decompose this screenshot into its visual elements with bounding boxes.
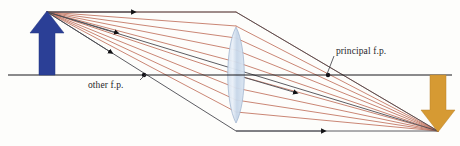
image-arrow [421,75,455,132]
principal-fp-leader-line [327,56,334,74]
principal-focal-point-label: principal f.p. [336,46,386,56]
optics-ray-diagram: other f.p. principal f.p. [0,0,460,146]
other-focal-point-label: other f.p. [88,80,124,90]
diagram-canvas [0,0,460,146]
object-arrow [30,11,64,75]
principal-focal-point-marker [326,73,330,77]
